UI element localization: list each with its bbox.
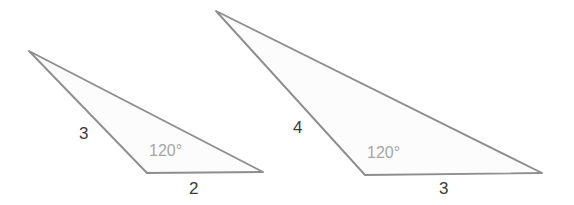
right-triangle-angle-label: 120° xyxy=(367,145,400,161)
left-triangle-shape xyxy=(29,51,263,173)
left-triangle-base-label: 2 xyxy=(189,180,198,197)
right-triangle-base-label: 3 xyxy=(439,180,448,197)
left-triangle-angle-label: 120° xyxy=(149,143,182,159)
geometry-figure: 3 120° 2 4 120° 3 xyxy=(0,0,574,205)
right-triangle-left-side-label: 4 xyxy=(293,119,302,136)
triangles-canvas xyxy=(0,0,574,205)
left-triangle-left-side-label: 3 xyxy=(79,125,88,142)
